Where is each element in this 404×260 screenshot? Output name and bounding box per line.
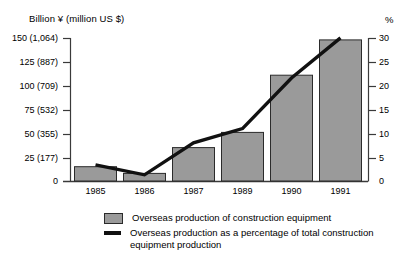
y-axis-left [63, 38, 71, 182]
legend-item-line: Overseas production as a percentage of t… [104, 227, 373, 250]
legend-item-bars-label: Overseas production of construction equi… [132, 212, 331, 224]
legend-item-bars: Overseas production of construction equi… [104, 212, 331, 224]
bar-series [75, 40, 362, 181]
legend-item-line-label: Overseas production as a percentage of t… [130, 227, 373, 250]
x-tick-label-1990: 1990 [268, 186, 316, 196]
bar-1989 [222, 132, 264, 181]
y-axis-right [369, 38, 377, 182]
bar-1991 [320, 40, 362, 181]
x-tick-label-1985: 1985 [72, 186, 120, 196]
x-tick-label-1986: 1986 [121, 186, 169, 196]
legend-line-swatch-icon [104, 231, 121, 235]
chart-container: Billion ¥ (million US $) % 150 (1,064) 1… [0, 0, 404, 260]
x-tick-label-1991: 1991 [317, 186, 365, 196]
x-tick-label-1987: 1987 [170, 186, 218, 196]
x-tick-label-1989: 1989 [219, 186, 267, 196]
legend-bar-swatch-icon [104, 213, 123, 224]
